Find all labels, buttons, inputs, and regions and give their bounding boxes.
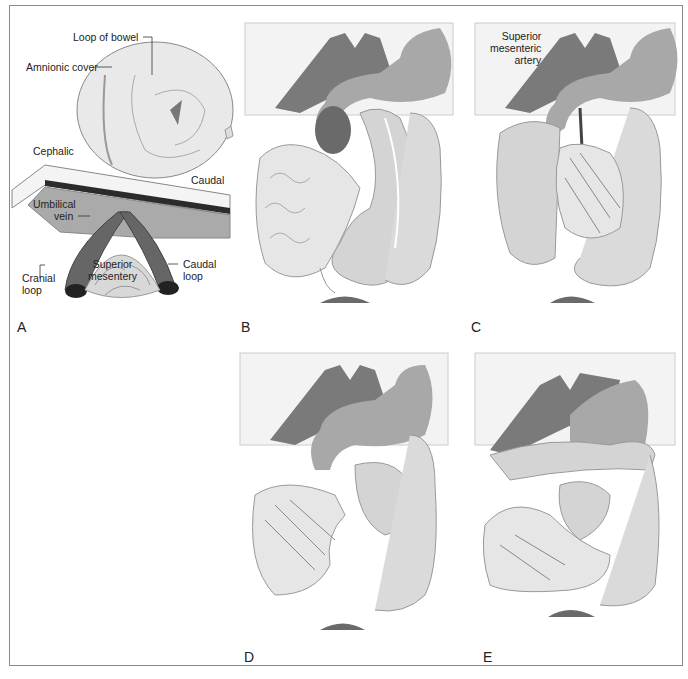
callout-superior-mesentery: Superior mesentery [88,258,137,282]
panel-label-a: A [17,319,26,335]
callout-loop-of-bowel: Loop of bowel [73,31,138,43]
callout-caudal-loop-line2: loop [183,270,216,282]
callout-sma-line2: mesenteric [490,42,541,54]
callout-amnionic-cover: Amnionic cover [26,61,98,73]
panel-d [235,345,460,630]
callout-superior-mesenteric-artery: Superior mesenteric artery [490,30,541,66]
panel-b [240,18,465,303]
callout-cranial-loop-line2: loop [22,284,55,296]
panel-label-b: B [241,319,250,335]
callout-caudal: Caudal [191,174,224,186]
callout-sma-line1: Superior [490,30,541,42]
callout-umbilical-vein-line2: vein [33,210,76,222]
panel-label-d: D [244,649,254,665]
callout-caudal-loop: Caudal loop [183,258,216,282]
panel-label-e: E [483,649,492,665]
callout-cranial-loop: Cranial loop [22,272,55,296]
callout-cephalic: Cephalic [33,145,74,157]
panel-d-illustration [235,345,460,630]
panel-a: Loop of bowel Amnionic cover Cephalic Ca… [0,0,240,320]
callout-superior-mesentery-line2: mesentery [88,270,137,282]
callout-umbilical-vein: Umbilical vein [33,198,76,222]
panel-e [470,345,680,630]
callout-umbilical-vein-line1: Umbilical [33,198,76,210]
panel-label-c: C [471,319,481,335]
callout-sma-line3: artery [490,54,541,66]
panel-e-illustration [470,345,680,630]
callout-cranial-loop-line1: Cranial [22,272,55,284]
callout-superior-mesentery-line1: Superior [88,258,137,270]
panel-c: Superior mesenteric artery [470,18,680,303]
panel-b-illustration [240,18,465,303]
callout-caudal-loop-line1: Caudal [183,258,216,270]
